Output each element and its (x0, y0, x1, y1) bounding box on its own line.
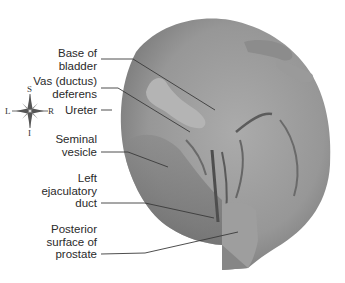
leader-base-of-bladder (101, 59, 215, 110)
label-left-ejaculatory-duct: Left ejaculatory duct (41, 172, 97, 210)
label-seminal-vesicle: Seminal vesicle (55, 133, 97, 158)
compass-left: L (5, 106, 11, 116)
label-ureter: Ureter (65, 104, 97, 117)
anatomy-figure: Base of bladder Vas (ductus) deferens Ur… (0, 0, 345, 283)
leader-vas-deferens (101, 88, 190, 132)
compass-inferior: I (28, 128, 31, 138)
leader-seminal-vesicle (101, 152, 168, 167)
compass-superior: S (27, 84, 32, 94)
label-posterior-surface-of-prostate: Posterior surface of prostate (47, 223, 98, 261)
leader-posterior-prostate (101, 232, 238, 254)
leader-ejaculatory-duct (101, 203, 214, 218)
compass-rose: S I L R (4, 84, 54, 138)
compass-right: R (48, 106, 54, 116)
label-base-of-bladder: Base of bladder (58, 47, 97, 72)
